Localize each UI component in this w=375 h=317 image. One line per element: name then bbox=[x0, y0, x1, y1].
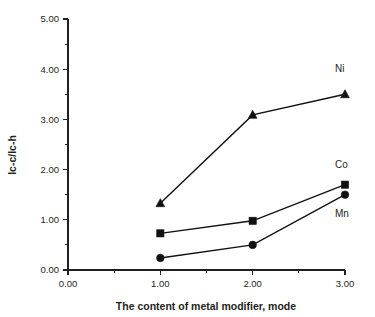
y-tick-label: 5.00 bbox=[41, 13, 60, 24]
data-point-co-0 bbox=[157, 230, 164, 237]
axes bbox=[68, 19, 345, 270]
chart-container: 0.001.002.003.004.005.000.001.002.003.00… bbox=[0, 0, 375, 317]
y-tick-label: 2.00 bbox=[41, 164, 60, 175]
x-tick-label: 2.00 bbox=[243, 278, 262, 289]
data-series bbox=[156, 90, 349, 262]
series-label-co: Co bbox=[335, 159, 348, 170]
axis-ticks bbox=[63, 19, 345, 275]
line-chart: 0.001.002.003.004.005.000.001.002.003.00… bbox=[0, 0, 375, 317]
data-point-mn-2 bbox=[341, 191, 349, 199]
x-tick-label: 0.00 bbox=[59, 278, 78, 289]
y-tick-label: 4.00 bbox=[41, 64, 60, 75]
series-label-ni: Ni bbox=[335, 63, 344, 74]
data-point-ni-2 bbox=[341, 90, 350, 98]
series-ni bbox=[156, 90, 349, 207]
x-tick-label: 3.00 bbox=[336, 278, 355, 289]
data-point-co-2 bbox=[341, 181, 348, 188]
y-tick-label: 1.00 bbox=[41, 214, 60, 225]
data-point-co-1 bbox=[249, 217, 256, 224]
y-tick-label: 3.00 bbox=[41, 114, 60, 125]
x-axis-title: The content of metal modifier, mode bbox=[116, 300, 296, 312]
axis-tick-labels: 0.001.002.003.004.005.000.001.002.003.00 bbox=[41, 13, 355, 289]
data-point-mn-0 bbox=[157, 254, 165, 262]
data-point-mn-1 bbox=[249, 241, 257, 249]
x-tick-label: 1.00 bbox=[151, 278, 170, 289]
series-mn bbox=[157, 191, 349, 262]
y-tick-label: 0.00 bbox=[41, 264, 60, 275]
series-label-mn: Mn bbox=[335, 208, 349, 219]
y-axis-title: Ic-c/Ic-h bbox=[6, 135, 18, 175]
